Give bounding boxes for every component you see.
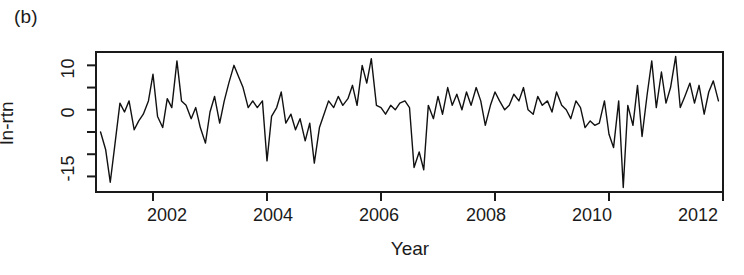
y-axis-ticks bbox=[87, 65, 96, 176]
chart-figure: (b) ln-rtn Year 10 0 -15 2002 2004 2006 … bbox=[0, 0, 744, 275]
plot-area bbox=[0, 0, 744, 275]
data-series-line bbox=[101, 56, 719, 187]
x-axis-ticks bbox=[153, 192, 723, 201]
plot-frame bbox=[96, 52, 723, 192]
